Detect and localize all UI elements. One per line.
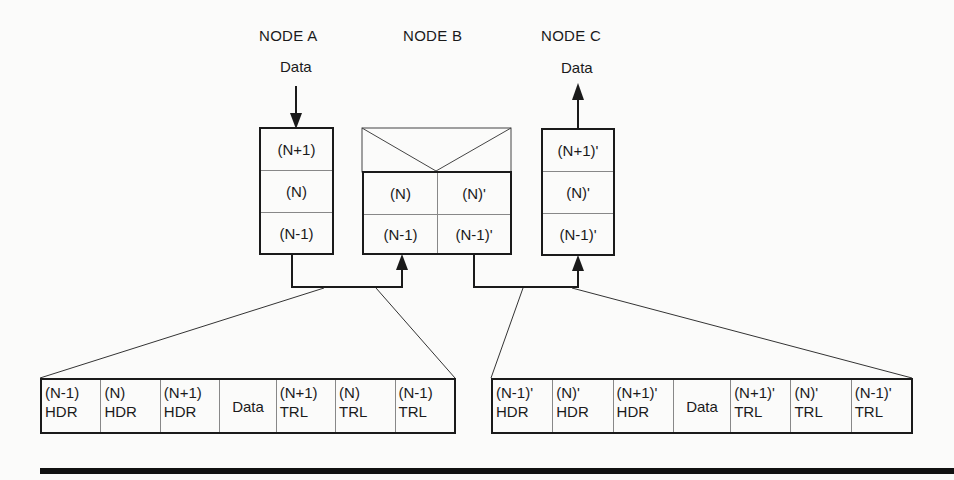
packet-left-cell-n-minus-1-trl: (N-1)TRL — [396, 380, 454, 432]
bottom-rule — [40, 468, 954, 474]
data-in-arrow-icon — [290, 86, 302, 129]
link-b-to-c — [474, 254, 584, 287]
node-c-stack: (N+1)' (N)' (N-1)' — [541, 128, 615, 256]
node-b-relay: (N) (N)' (N-1) (N-1)' — [362, 171, 512, 255]
node-c-title: NODE C — [541, 27, 601, 44]
node-b-layer-n-prime: (N)' — [438, 173, 510, 215]
packet-left: (N-1)HDR (N)HDR (N+1)HDR Data (N+1)TRL (… — [40, 378, 456, 434]
packet-right: (N-1)'HDR (N)'HDR (N+1)'HDR Data (N+1)'T… — [491, 378, 913, 434]
expansion-lines-left — [40, 288, 455, 378]
node-b-title: NODE B — [403, 27, 462, 44]
node-a-title: NODE A — [259, 27, 317, 44]
packet-right-cell-n-trl: (N)'TRL — [791, 380, 851, 432]
node-b-layer-n-minus-1: (N-1) — [364, 215, 438, 253]
relay-envelope-icon — [362, 128, 511, 172]
packet-left-cell-n-trl: (N)TRL — [336, 380, 395, 432]
packet-right-cell-n-minus-1-hdr: (N-1)'HDR — [493, 380, 553, 432]
packet-left-cell-n-minus-1-hdr: (N-1)HDR — [42, 380, 101, 432]
packet-left-cell-n-plus-1-trl: (N+1)TRL — [277, 380, 336, 432]
node-c-layer-n-prime: (N)' — [543, 172, 613, 214]
node-a-stack: (N+1) (N) (N-1) — [259, 127, 334, 255]
packet-right-cell-n-plus-1-hdr: (N+1)'HDR — [614, 380, 674, 432]
node-b-layer-n-minus-1-prime: (N-1)' — [438, 215, 510, 253]
node-a-layer-n-plus-1: (N+1) — [261, 129, 332, 171]
packet-left-cell-n-hdr: (N)HDR — [101, 380, 160, 432]
node-a-data-label: Data — [280, 58, 312, 75]
expansion-lines-right — [491, 288, 912, 378]
packet-left-cell-n-plus-1-hdr: (N+1)HDR — [161, 380, 220, 432]
node-a-layer-n: (N) — [261, 171, 332, 213]
data-out-arrow-icon — [572, 83, 584, 128]
link-a-to-b — [292, 254, 408, 287]
packet-right-cell-n-plus-1-trl: (N+1)'TRL — [731, 380, 791, 432]
packet-right-cell-data: Data — [674, 380, 731, 432]
node-c-layer-n-minus-1-prime: (N-1)' — [543, 214, 613, 254]
packet-right-cell-n-minus-1-trl: (N-1)'TRL — [852, 380, 911, 432]
node-a-layer-n-minus-1: (N-1) — [261, 213, 332, 253]
node-c-layer-n-plus-1-prime: (N+1)' — [543, 130, 613, 172]
node-c-data-label: Data — [561, 59, 593, 76]
packet-right-cell-n-hdr: (N)'HDR — [553, 380, 613, 432]
node-b-layer-n: (N) — [364, 173, 438, 215]
packet-left-cell-data: Data — [220, 380, 276, 432]
